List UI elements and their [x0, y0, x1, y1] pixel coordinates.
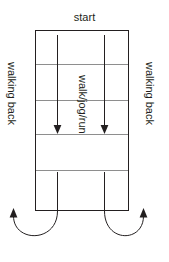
- u-turn-arrow-left: [10, 208, 58, 236]
- walking-back-label-right: walking back: [144, 62, 155, 125]
- exercise-drill-diagram: start walking back walking back walk/jog…: [0, 0, 169, 262]
- walking-back-label-left: walking back: [6, 62, 17, 125]
- u-turn-arrow-right: [105, 208, 148, 236]
- down-arrow-right: [101, 35, 109, 134]
- down-arrow-left: [54, 35, 62, 134]
- walk-jog-run-label: walk/jog/run: [77, 75, 88, 134]
- start-label: start: [0, 12, 169, 23]
